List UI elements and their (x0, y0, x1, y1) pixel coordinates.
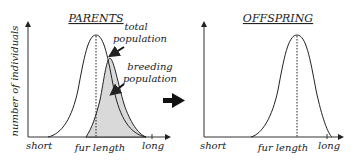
transition-arrow (163, 93, 185, 108)
parents-x-max-label: long (142, 140, 164, 151)
total-label-line1: total (124, 21, 147, 32)
offspring-title: OFFSPRING (243, 12, 313, 25)
offspring-chart: OFFSPRING short fur length long (200, 12, 341, 153)
parents-chart: PARENTS number of individuals short fur … (9, 12, 177, 153)
parents-x-label: fur length (74, 142, 126, 153)
offspring-curve (251, 35, 332, 137)
offspring-x-label: fur length (257, 142, 309, 153)
selection-diagram: PARENTS number of individuals short fur … (0, 0, 355, 162)
breeding-label-line2: population (123, 73, 177, 84)
total-label-line2: population (113, 33, 167, 44)
offspring-x-max-label: long (318, 140, 340, 151)
total-pointer-arrow (113, 47, 124, 54)
offspring-x-min-label: short (200, 140, 227, 151)
breeding-label-line1: breeding (127, 61, 172, 72)
parents-x-min-label: short (26, 140, 53, 151)
parents-y-label: number of individuals (9, 26, 20, 137)
parents-title: PARENTS (67, 12, 124, 25)
